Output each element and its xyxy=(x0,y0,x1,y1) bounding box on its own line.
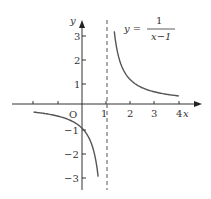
function-graph: x y O 1 2 3 4 3 2 1 −1 −2 −3 y = 1 x−1 xyxy=(0,0,211,199)
y-ticks xyxy=(82,36,86,178)
curve-left-branch xyxy=(34,112,99,177)
x-tick-label-2: 2 xyxy=(127,108,133,119)
x-axis-label: x xyxy=(183,108,189,119)
y-tick-label-1: 1 xyxy=(74,79,80,90)
x-axis-arrow-icon xyxy=(194,101,202,107)
equation-lhs: y = xyxy=(123,23,141,34)
y-tick-label-neg2: −2 xyxy=(64,149,79,160)
x-tick-label-3: 3 xyxy=(151,108,157,119)
y-axis-label: y xyxy=(69,15,76,26)
y-axis-arrow-icon xyxy=(79,20,85,28)
y-tick-label-neg1: −1 xyxy=(64,125,79,136)
y-tick-label-3: 3 xyxy=(74,31,80,42)
equation-label: y = 1 x−1 xyxy=(123,15,175,42)
x-tick-label-1: 1 xyxy=(101,108,107,119)
y-tick-label-2: 2 xyxy=(74,55,80,66)
y-tick-label-neg3: −3 xyxy=(64,173,79,184)
graph-canvas: x y O 1 2 3 4 3 2 1 −1 −2 −3 y = 1 x−1 xyxy=(0,0,211,199)
x-tick-label-4: 4 xyxy=(176,108,182,119)
equation-numerator: 1 xyxy=(156,15,162,26)
origin-label: O xyxy=(69,109,77,120)
equation-denominator: x−1 xyxy=(151,31,171,42)
